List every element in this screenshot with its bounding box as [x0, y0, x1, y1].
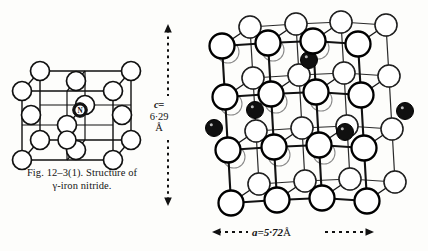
figure-root: N Fig. 12–3(1). Structure of γ-iron nitr…: [0, 0, 428, 251]
right-lattice-diagram: [0, 0, 428, 251]
